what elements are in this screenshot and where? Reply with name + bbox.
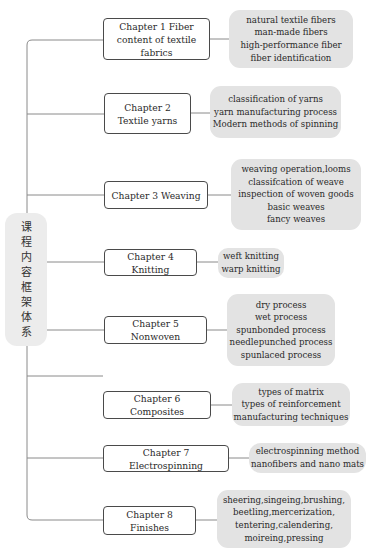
chapter-1-node: Chapter 1 Fiber content of textile fabri… xyxy=(103,18,210,60)
topic-item: wet process xyxy=(255,311,307,324)
root-char: 框 xyxy=(21,280,32,295)
topic-item: dry process xyxy=(256,299,307,312)
root-char: 架 xyxy=(21,295,32,310)
topic-item: spunbonded process xyxy=(236,324,326,337)
topic-item: spunlaced process xyxy=(241,349,322,362)
chapter-4-topics: weft knitting warp knitting xyxy=(218,248,284,278)
chapter-5-topics: dry process wet process spunbonded proce… xyxy=(227,294,335,366)
chapter-3-node: Chapter 3 Weaving xyxy=(104,181,208,209)
topic-item: man-made fibers xyxy=(254,26,327,39)
root-char: 程 xyxy=(21,235,32,250)
topic-item: sheering,singeing,brushing, xyxy=(223,494,345,507)
topic-item: inspection of woven goods xyxy=(238,188,353,201)
chapter-6-topics: types of matrix types of reinforcement m… xyxy=(232,383,350,426)
connector-lines xyxy=(0,0,373,560)
chapter-7-node: Chapter 7 Electrospinning xyxy=(103,445,229,472)
topic-item: classifcation of weave xyxy=(248,176,344,189)
chapter-8-node: Chapter 8 Finishes xyxy=(103,506,196,535)
chapter-2-node: Chapter 2 Textile yarns xyxy=(104,93,191,134)
topic-item: manufacturing techniques xyxy=(234,411,349,424)
topic-item: fiber identification xyxy=(251,52,332,65)
topic-item: nanofibers and nano mats xyxy=(251,458,364,471)
topic-item: yarn manufacturing process xyxy=(214,106,337,119)
topic-item: beetling,mercerization, xyxy=(233,506,335,519)
root-node-course-framework: 课 程 内 容 框 架 体 系 xyxy=(5,213,47,346)
topic-item: high-performance fiber xyxy=(240,39,341,52)
topic-item: natural textile fibers xyxy=(246,14,335,27)
chapter-8-topics: sheering,singeing,brushing, beetling,mer… xyxy=(217,490,351,548)
root-char: 内 xyxy=(21,250,32,265)
root-char: 课 xyxy=(21,220,32,235)
root-char: 系 xyxy=(21,325,32,340)
topic-item: types of matrix xyxy=(258,386,324,399)
chapter-3-topics: weaving operation,looms classifcation of… xyxy=(231,159,361,230)
chapter-7-topics: electrospinning method nanofibers and na… xyxy=(249,443,366,473)
topic-item: Modern methods of spinning xyxy=(213,118,339,131)
topic-item: warp knitting xyxy=(222,263,281,276)
topic-item: moireing,pressing xyxy=(244,532,323,545)
root-char: 体 xyxy=(21,310,32,325)
root-char: 容 xyxy=(21,265,32,280)
chapter-1-topics: natural textile fibers man-made fibers h… xyxy=(229,10,353,68)
topic-item: basic weaves xyxy=(267,201,324,214)
topic-item: electrospinning method xyxy=(256,445,360,458)
topic-item: needlepunched process xyxy=(230,336,333,349)
topic-item: weaving operation,looms xyxy=(241,163,350,176)
chapter-4-node: Chapter 4 Knitting xyxy=(104,249,197,276)
topic-item: weft knitting xyxy=(223,250,279,263)
topic-item: tentering,calendering, xyxy=(235,519,333,532)
chapter-5-node: Chapter 5 Nonwoven xyxy=(104,316,207,344)
topic-item: types of reinforcement xyxy=(241,398,340,411)
topic-item: fancy weaves xyxy=(267,213,325,226)
chapter-2-topics: classification of yarns yarn manufacturi… xyxy=(210,86,341,138)
topic-item: classification of yarns xyxy=(228,93,323,106)
chapter-6-node: Chapter 6 Composites xyxy=(103,391,211,419)
